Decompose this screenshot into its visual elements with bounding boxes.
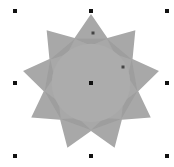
selection-handle-bottom-right[interactable] xyxy=(165,154,169,158)
selection-handle-bottom-left[interactable] xyxy=(13,154,17,158)
selection-handle-middle-left[interactable] xyxy=(13,81,17,85)
selection-handle-top-left[interactable] xyxy=(13,9,17,13)
selection-handle-bottom-middle[interactable] xyxy=(89,154,93,158)
drawing-canvas[interactable] xyxy=(0,0,174,167)
outer-node[interactable] xyxy=(92,32,95,35)
selection-handle-middle-right[interactable] xyxy=(165,81,169,85)
inner-node[interactable] xyxy=(122,66,125,69)
center-handle[interactable] xyxy=(89,81,93,85)
star-shape-layer[interactable] xyxy=(0,0,174,167)
selection-handle-top-middle[interactable] xyxy=(89,9,93,13)
selection-handle-top-right[interactable] xyxy=(165,9,169,13)
